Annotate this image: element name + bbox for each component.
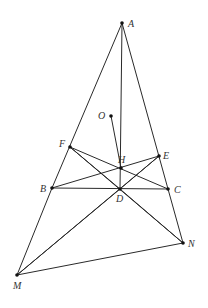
label-M: M: [12, 280, 22, 291]
segment-CN: [168, 189, 183, 243]
label-F: F: [58, 138, 66, 149]
label-N: N: [187, 238, 196, 249]
segment-BM: [17, 188, 52, 275]
point-O: [109, 114, 113, 118]
point-N: [181, 241, 185, 245]
segment-AC: [122, 23, 168, 189]
segment-BC: [52, 188, 168, 189]
segment-AB: [52, 23, 122, 188]
points: [15, 21, 185, 277]
label-B: B: [40, 183, 46, 194]
label-E: E: [162, 150, 169, 161]
label-O: O: [98, 110, 105, 121]
point-E: [157, 154, 161, 158]
segment-BE: [52, 156, 159, 188]
point-A: [120, 21, 124, 25]
point-D: [118, 187, 122, 191]
label-C: C: [174, 184, 181, 195]
point-M: [15, 273, 19, 277]
labels: AOFHEBDCNM: [12, 18, 196, 291]
label-A: A: [127, 18, 135, 29]
geometry-diagram: AOFHEBDCNM: [0, 0, 208, 308]
point-B: [50, 186, 54, 190]
segments: [17, 23, 183, 275]
point-F: [68, 145, 72, 149]
segment-MN: [17, 243, 183, 275]
point-C: [166, 187, 170, 191]
segment-DM: [17, 189, 120, 275]
label-H: H: [117, 154, 126, 165]
segment-DN: [120, 189, 183, 243]
diagram-svg: AOFHEBDCNM: [0, 0, 208, 308]
point-H: [119, 166, 123, 170]
label-D: D: [115, 193, 124, 204]
